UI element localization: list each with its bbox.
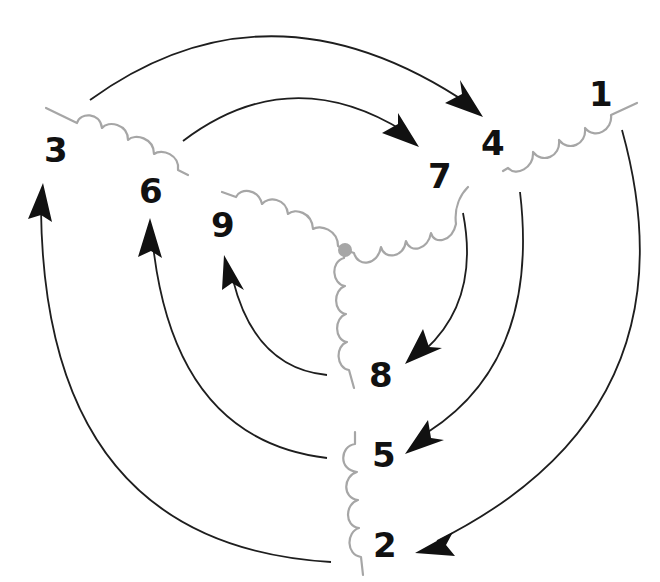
arrow-3-to-4 [90,36,470,105]
arrowhead-at-3 [28,183,52,222]
arrowhead-at-7 [382,113,419,147]
lead-label-9: 9 [211,205,235,245]
lead-label-8: 8 [369,355,393,395]
coil-5-2 [343,432,363,575]
arrowhead-at-2 [415,532,455,556]
lead-label-1: 1 [589,74,613,114]
lead-label-2: 2 [373,525,397,565]
arrowhead-at-9 [222,255,244,290]
arrow-1-to-2 [437,130,640,541]
wye-coil-7 [345,187,468,263]
lead-label-5: 5 [372,435,396,475]
lead-label-4: 4 [481,123,505,163]
arrowhead-at-8 [405,329,442,364]
arrowhead-at-4 [445,80,483,117]
lead-label-6: 6 [139,171,163,211]
arrow-8-to-9 [233,280,327,375]
coil-1-4 [503,103,637,172]
wye-connection-diagram: 3 6 9 7 4 1 8 5 2 [0,0,660,582]
wye-junction-dot [338,243,352,257]
lead-label-7: 7 [428,156,452,196]
arrow-2-to-3 [41,210,331,562]
arrow-6-to-7 [183,98,405,141]
lead-label-3: 3 [44,130,68,170]
arrow-5-to-6 [153,245,327,458]
arrow-4-to-5 [428,192,523,432]
wye-coil-8 [334,250,354,388]
wye-coil-9 [222,191,345,250]
diagram-svg: 3 6 9 7 4 1 8 5 2 [0,0,660,582]
arrowhead-at-6 [138,218,162,258]
